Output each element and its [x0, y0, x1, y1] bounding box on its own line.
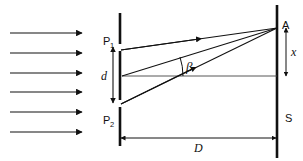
label-slit-p1-subscript: 1: [110, 41, 114, 50]
label-slit-p2-subscript: 2: [110, 120, 114, 129]
label-screen-s: S: [285, 112, 292, 124]
incoming-plane-wave-arrows: [10, 33, 82, 132]
double-slit-diagram: P 1 P 2 d D x S A β: [0, 0, 303, 161]
label-fringe-position-x: x: [290, 45, 297, 59]
ray-midpoint-to-a: [122, 28, 277, 76]
label-angle-beta: β: [185, 59, 193, 74]
ray-p1-arrowhead: [121, 39, 199, 50]
label-screen-distance-D: D: [193, 141, 203, 155]
label-slit-separation-d: d: [101, 69, 108, 83]
figure-root: P 1 P 2 d D x S A β: [0, 0, 303, 161]
angle-beta-arc: [180, 57, 183, 76]
label-point-a: A: [282, 19, 290, 31]
